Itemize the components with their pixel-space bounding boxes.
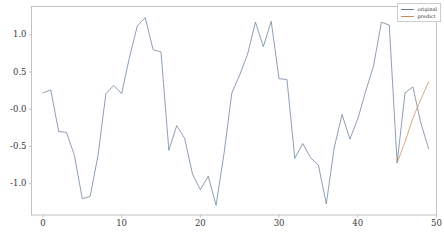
x-tick-label: 30 — [264, 219, 294, 228]
legend-entry-predict: predict — [401, 13, 437, 19]
figure-background — [0, 0, 444, 242]
legend-label-predict: predict — [417, 13, 435, 19]
chart-legend: original predict — [397, 3, 441, 22]
chart-figure: 01020304050 1.00.5-0.0-0.5-1.0 original … — [0, 0, 444, 242]
x-tick-label: 10 — [107, 219, 137, 228]
y-tick-label: -0.5 — [0, 142, 27, 151]
legend-entry-original: original — [401, 6, 437, 12]
x-tick-label: 40 — [343, 219, 373, 228]
x-tick-label: 20 — [185, 219, 215, 228]
legend-label-original: original — [417, 6, 437, 12]
legend-swatch-original — [401, 9, 414, 10]
y-tick-label: 1.0 — [0, 30, 27, 39]
y-tick-label: -1.0 — [0, 179, 27, 188]
y-tick-label: 0.5 — [0, 68, 27, 77]
plot-canvas — [0, 0, 444, 242]
x-tick-label: 0 — [28, 219, 58, 228]
x-tick-label: 50 — [422, 219, 444, 228]
legend-swatch-predict — [401, 16, 414, 17]
y-tick-label: -0.0 — [0, 105, 27, 114]
